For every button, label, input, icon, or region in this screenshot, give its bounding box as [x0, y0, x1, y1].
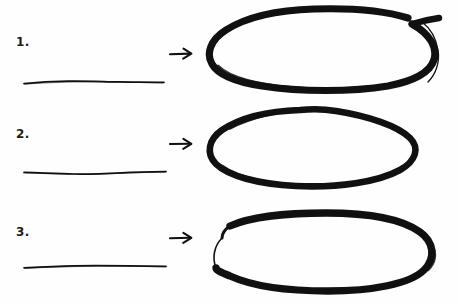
right-arrow-2 [168, 134, 198, 154]
hand-drawn-horizontal-line-1 [18, 72, 178, 92]
step-number-1: 1. [16, 36, 30, 48]
step-row-1: 1. [0, 0, 458, 100]
step-row-2: 2. [0, 98, 458, 196]
step-row-3: 3. [0, 196, 458, 306]
hand-drawn-horizontal-line-3 [18, 256, 178, 276]
right-arrow-1 [168, 44, 198, 64]
hand-drawn-horizontal-line-2 [18, 162, 178, 182]
right-arrow-3 [168, 228, 198, 248]
hand-drawn-oval-1 [196, 4, 452, 100]
hand-drawn-oval-3 [196, 204, 452, 300]
sketch-canvas: 1. 2. [0, 0, 458, 306]
step-number-3: 3. [16, 226, 30, 238]
hand-drawn-oval-2 [196, 100, 452, 196]
step-number-2: 2. [16, 128, 30, 140]
